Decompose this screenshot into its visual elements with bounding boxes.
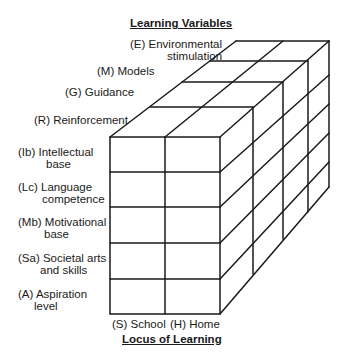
row-label-intellectual-base: (Ib) Intellectual base	[18, 146, 93, 170]
learning-variables-cube-diagram: Learning Variables (E) Environmental sti…	[0, 0, 348, 364]
depth-label-guidance: (G) Guidance	[65, 86, 134, 98]
bottom-title: Locus of Learning	[122, 333, 222, 345]
front-face-grid	[110, 137, 220, 314]
top-title: Learning Variables	[130, 17, 232, 29]
column-label-school: (S) School	[112, 318, 166, 330]
column-label-home: (H) Home	[170, 318, 220, 330]
row-label-motivational-base: (Mb) Motivational base	[18, 216, 106, 240]
row-label-societal-arts-and-skills: (Sa) Societal arts and skills	[18, 252, 106, 276]
row-label-aspiration-level: (A) Aspiration level	[18, 288, 87, 312]
depth-label-models: (M) Models	[97, 65, 155, 77]
row-label-language-competence: (Lc) Language competence	[18, 181, 105, 205]
depth-label-environmental-stimulation: (E) Environmental stimulation	[130, 38, 222, 62]
depth-label-reinforcement: (R) Reinforcement	[34, 114, 128, 126]
